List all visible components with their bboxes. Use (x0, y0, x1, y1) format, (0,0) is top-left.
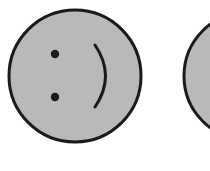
face-circle (9, 10, 141, 142)
smiley-illustration (0, 0, 210, 171)
face-circle (184, 12, 210, 140)
smiley-face-2 (184, 12, 210, 140)
eye-icon (51, 50, 59, 58)
eye-icon (51, 93, 59, 101)
smiley-face-1 (9, 10, 141, 142)
